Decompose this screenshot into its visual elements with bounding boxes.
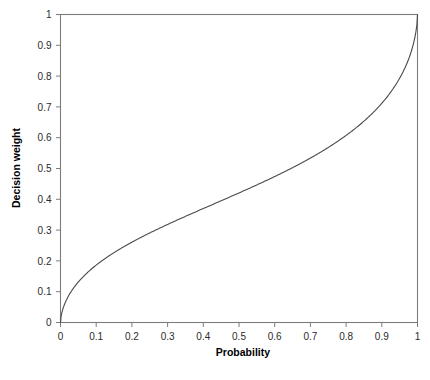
- y-tick-label: 0.8: [38, 71, 52, 82]
- y-tick-label: 0.4: [38, 194, 52, 205]
- y-tick-label: 0.7: [38, 102, 52, 113]
- x-tick-label: 0.7: [303, 331, 317, 342]
- y-tick-label: 0.5: [38, 163, 52, 174]
- x-tick-label: 0.8: [339, 331, 353, 342]
- x-tick-label: 0.2: [125, 331, 139, 342]
- probability-weighting-chart: 00.10.20.30.40.50.60.70.80.91 00.10.20.3…: [0, 0, 430, 380]
- x-tick-label: 0: [58, 331, 64, 342]
- y-tick-label: 0.9: [38, 40, 52, 51]
- x-tick-label: 0.1: [89, 331, 103, 342]
- x-tick-label: 0.5: [232, 331, 246, 342]
- y-tick-label: 0.1: [38, 286, 52, 297]
- x-tick-label: 0.4: [196, 331, 210, 342]
- y-tick-label: 0: [46, 317, 52, 328]
- x-tick-label: 0.3: [161, 331, 175, 342]
- x-tick-label: 0.6: [268, 331, 282, 342]
- x-tick-label: 0.9: [375, 331, 389, 342]
- y-axis-title: Decision weight: [10, 128, 22, 208]
- y-tick-label: 0.6: [38, 132, 52, 143]
- y-tick-label: 0.2: [38, 256, 52, 267]
- y-tick-label: 0.3: [38, 225, 52, 236]
- chart-container: 00.10.20.30.40.50.60.70.80.91 00.10.20.3…: [0, 0, 430, 380]
- y-tick-label: 1: [46, 9, 52, 20]
- x-tick-label: 1: [415, 331, 421, 342]
- x-axis-title: Probability: [216, 346, 270, 358]
